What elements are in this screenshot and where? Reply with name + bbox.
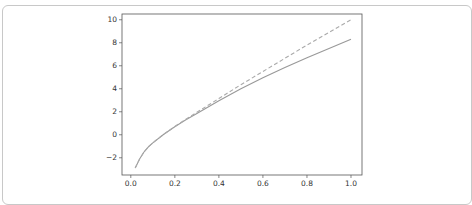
y-tick-label: 10 xyxy=(107,15,117,24)
y-tick-label: 6 xyxy=(112,61,117,70)
series-line-solid xyxy=(135,39,351,168)
axes-frame xyxy=(122,14,362,175)
series-line-dashed xyxy=(135,20,351,168)
y-tick-label: −2 xyxy=(106,153,117,162)
y-tick-label: 2 xyxy=(112,107,117,116)
x-tick-label: 0.2 xyxy=(169,179,181,188)
y-tick-label: 0 xyxy=(112,130,117,139)
x-tick-label: 0.4 xyxy=(213,179,225,188)
x-tick-label: 1.0 xyxy=(345,179,357,188)
x-tick-label: 0.0 xyxy=(125,179,137,188)
y-tick-label: 4 xyxy=(112,84,117,93)
y-tick-label: 8 xyxy=(112,38,117,47)
x-tick-label: 0.8 xyxy=(301,179,313,188)
x-tick-label: 0.6 xyxy=(257,179,269,188)
